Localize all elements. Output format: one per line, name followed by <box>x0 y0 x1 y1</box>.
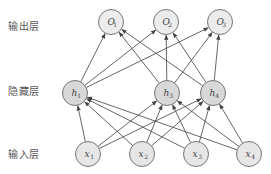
svg-text:1: 1 <box>113 21 117 28</box>
edge-x4-h4 <box>220 104 243 143</box>
svg-text:x: x <box>246 149 251 159</box>
svg-text:1: 1 <box>90 153 94 160</box>
edge-h4-O3 <box>214 35 218 81</box>
svg-text:3: 3 <box>198 153 202 160</box>
edge-x2-h4 <box>151 101 203 145</box>
node-h4: h4 <box>201 81 226 106</box>
edge-h4-O1 <box>122 29 203 85</box>
node-x1: x1 <box>76 142 101 167</box>
svg-text:2: 2 <box>144 153 148 160</box>
node-O3: O3 <box>208 10 233 35</box>
edge-x2-h1 <box>85 102 133 146</box>
edge-h3-O2 <box>166 35 167 81</box>
svg-text:x: x <box>85 149 90 159</box>
svg-text:3: 3 <box>169 92 173 99</box>
edge-h1-O2 <box>85 30 156 85</box>
nodes: O1O2O3h1h3h4x1x2x3x4 <box>63 10 262 167</box>
node-h3: h3 <box>155 81 180 106</box>
svg-text:3: 3 <box>222 21 226 28</box>
edge-h3-O3 <box>174 32 212 83</box>
edge-x3-h1 <box>87 99 185 149</box>
edge-h4-O2 <box>173 33 206 83</box>
node-O1: O1 <box>99 10 124 35</box>
neural-network-diagram: O1O2O3h1h3h4x1x2x3x4 <box>0 0 271 174</box>
node-h1: h1 <box>63 81 88 106</box>
svg-text:x: x <box>139 149 144 159</box>
node-x3: x3 <box>184 142 209 167</box>
edge-h1-O1 <box>81 34 105 82</box>
edge-x3-h3 <box>173 105 191 143</box>
node-x4: x4 <box>237 142 262 167</box>
node-x2: x2 <box>130 142 155 167</box>
edge-h3-O1 <box>119 32 159 83</box>
edge-x1-h1 <box>78 106 86 142</box>
svg-text:2: 2 <box>168 21 172 28</box>
svg-text:4: 4 <box>251 153 255 160</box>
node-O2: O2 <box>154 10 179 35</box>
svg-text:4: 4 <box>215 92 219 99</box>
svg-text:x: x <box>193 149 198 159</box>
svg-text:1: 1 <box>77 92 81 99</box>
